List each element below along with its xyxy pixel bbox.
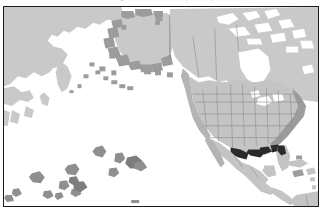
island-block	[155, 70, 161, 75]
island-block	[121, 25, 126, 30]
map-canvas	[4, 7, 318, 206]
island-block	[111, 70, 116, 75]
map-frame	[3, 6, 319, 207]
island-block	[109, 53, 115, 59]
island-block	[144, 68, 151, 74]
island-block	[155, 21, 160, 25]
island-block	[167, 72, 173, 77]
map-vector-layer	[4, 7, 318, 206]
figure-container: Figure 1. Distribution (shaded)	[0, 0, 322, 211]
island-blob	[131, 200, 139, 203]
